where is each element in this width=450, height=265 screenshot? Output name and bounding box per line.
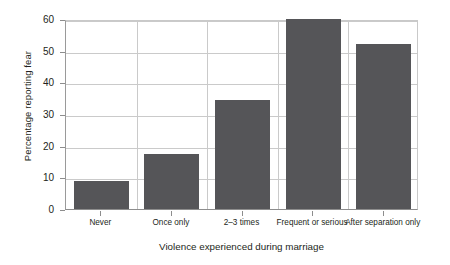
y-tick-label: 20 xyxy=(14,142,54,152)
y-tick-label: 40 xyxy=(14,78,54,88)
plot-area xyxy=(65,20,418,210)
bar xyxy=(215,100,270,209)
y-tick-label: 60 xyxy=(14,15,54,25)
gridline-x xyxy=(348,21,349,209)
x-tick-mark xyxy=(171,211,172,216)
x-tick-mark xyxy=(100,211,101,216)
bar xyxy=(286,19,341,209)
gridline-x xyxy=(207,21,208,209)
x-tick-mark xyxy=(312,211,313,216)
y-tick-label: 50 xyxy=(14,47,54,57)
gridline-x xyxy=(278,21,279,209)
bar xyxy=(74,181,129,210)
x-tick-mark xyxy=(383,211,384,216)
x-tick-mark xyxy=(242,211,243,216)
bar xyxy=(356,44,411,209)
y-tick-mark xyxy=(60,210,65,211)
bar xyxy=(144,154,199,209)
x-axis-title: Violence experienced during marriage xyxy=(65,241,418,252)
gridline-x xyxy=(137,21,138,209)
y-tick-label: 10 xyxy=(14,173,54,183)
y-tick-label: 30 xyxy=(14,110,54,120)
gridline-y xyxy=(66,21,417,22)
y-tick-label: 0 xyxy=(14,205,54,215)
bar-chart-figure: Percentage reporting fear 0102030405060 … xyxy=(0,0,450,265)
x-tick-label: After separation only xyxy=(339,218,426,228)
